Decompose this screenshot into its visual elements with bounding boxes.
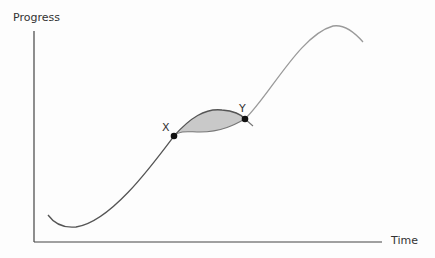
point-x-marker bbox=[171, 133, 178, 140]
y-axis-label: Progress bbox=[13, 11, 60, 24]
diagram-canvas bbox=[0, 0, 435, 258]
point-y-label: Y bbox=[239, 102, 246, 115]
x-axis-label: Time bbox=[391, 234, 418, 247]
point-x-label: X bbox=[162, 121, 170, 134]
progress-curve-upper bbox=[245, 26, 363, 119]
progress-curve-lower bbox=[48, 136, 174, 227]
point-y-marker bbox=[242, 116, 249, 123]
